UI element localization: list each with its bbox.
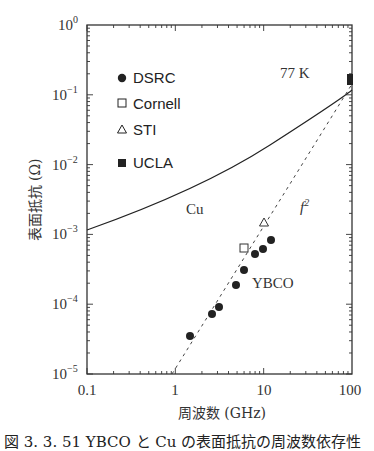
- axis-ticks: [87, 25, 352, 374]
- y-tick-label: 100: [58, 14, 78, 33]
- x-tick-label: 1: [171, 382, 179, 398]
- dsrc-point: [186, 332, 194, 340]
- cu-annotation: Cu: [186, 201, 204, 217]
- dsrc-point: [208, 310, 216, 318]
- open-square-icon: [118, 99, 126, 107]
- legend-label-cornell: Cornell: [133, 95, 181, 112]
- x-axis-title: 周波数 (GHz): [178, 405, 266, 421]
- legend-label-ucla: UCLA: [133, 154, 173, 171]
- dsrc-point: [232, 281, 240, 289]
- open-triangle-icon: [118, 125, 127, 133]
- y-tick-label: 10−1: [52, 84, 78, 103]
- y-tick-label: 10−4: [52, 293, 78, 312]
- f2-annotation: f2: [300, 197, 309, 215]
- ybco-annotation: YBCO: [252, 275, 294, 291]
- legend-label-dsrc: DSRC: [133, 69, 176, 86]
- filled-circle-icon: [118, 74, 126, 82]
- figure-caption: 図 3. 3. 51 YBCO と Cu の表面抵抗の周波数依存性: [4, 430, 361, 451]
- y-tick-label: 10−2: [52, 154, 78, 173]
- dsrc-point: [215, 303, 223, 311]
- cu-curve: [87, 90, 352, 230]
- data-points: [186, 74, 353, 340]
- filled-square-icon: [118, 159, 126, 167]
- f2-dashed-line: [172, 84, 352, 374]
- x-tick-labels: 0.1 1 10 100: [78, 382, 362, 398]
- legend: DSRC Cornell STI UCLA: [118, 69, 181, 171]
- x-tick-label: 100: [339, 382, 362, 398]
- plot-frame: [87, 25, 352, 374]
- dsrc-point: [251, 250, 259, 258]
- dsrc-point: [267, 236, 275, 244]
- y-tick-labels: 100 10−1 10−2 10−3 10−4 10−5: [52, 14, 78, 382]
- legend-label-sti: STI: [133, 121, 156, 138]
- x-tick-label: 10: [257, 382, 272, 398]
- dsrc-point: [259, 245, 267, 253]
- y-tick-label: 10−3: [52, 223, 78, 242]
- sti-point: [260, 218, 269, 226]
- temperature-annotation: 77 K: [280, 65, 310, 81]
- ucla-point: [347, 74, 353, 85]
- cornell-point: [240, 244, 248, 252]
- x-tick-label: 0.1: [78, 382, 97, 398]
- dsrc-point: [240, 266, 248, 274]
- y-axis-title: 表面抵抗 (Ω): [27, 159, 43, 242]
- y-tick-label: 10−5: [52, 363, 78, 382]
